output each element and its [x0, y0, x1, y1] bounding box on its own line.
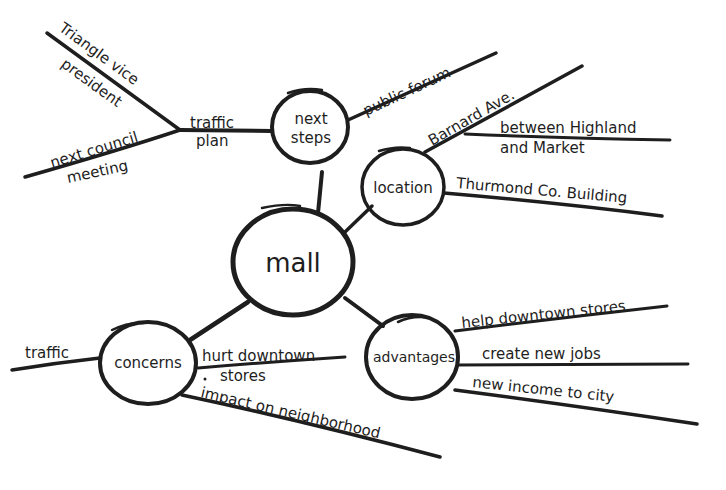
branch-label: traffic [190, 114, 234, 132]
node-label: location [373, 179, 433, 197]
center-node-mall: mall [233, 205, 353, 315]
node-label: next [294, 110, 327, 128]
node-label: concerns [114, 354, 182, 372]
branch-label: stores [220, 367, 266, 385]
mind-map: mall next steps traffic plan Triangle vi… [0, 0, 726, 490]
branch-label: between Highland [500, 119, 637, 137]
branch-label: impact on neighborhood [199, 383, 382, 442]
branch-label: create new jobs [482, 345, 601, 363]
mind-map-drawing: mall next steps traffic plan Triangle vi… [0, 0, 726, 490]
node-next-steps: next steps traffic plan Triangle vice pr… [25, 18, 496, 187]
node-label: steps [291, 129, 331, 147]
node-label: advantages [373, 349, 455, 365]
branch-label: help downtown stores [461, 297, 627, 332]
node-concerns: concerns traffic hurt downtown stores im… [12, 322, 440, 457]
branch-label: hurt downtown [202, 347, 315, 365]
branch-label: plan [196, 132, 228, 150]
branch-label: public forum [360, 63, 453, 119]
branch-label: and Market [500, 139, 585, 157]
node-advantages: advantages help downtown stores create n… [366, 297, 697, 424]
branch-label: traffic [25, 344, 69, 362]
center-label: mall [265, 248, 321, 278]
